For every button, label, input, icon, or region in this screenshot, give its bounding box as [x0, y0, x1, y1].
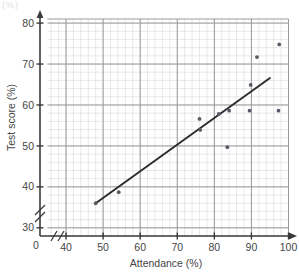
svg-text:100: 100: [280, 241, 298, 253]
svg-text:30: 30: [22, 221, 34, 233]
axis-lines: [37, 10, 297, 239]
svg-text:70: 70: [171, 241, 183, 253]
svg-text:0: 0: [33, 239, 39, 251]
chart-figure: (%) 3040506070804050607080901000 Attenda…: [0, 0, 299, 280]
svg-text:80: 80: [209, 241, 221, 253]
svg-text:90: 90: [246, 241, 258, 253]
minor-gridlines: [48, 19, 289, 236]
svg-text:70: 70: [22, 58, 34, 70]
svg-text:40: 40: [60, 241, 72, 253]
svg-text:40: 40: [22, 180, 34, 192]
svg-text:50: 50: [97, 241, 109, 253]
cropped-text-fragment: (%): [2, 0, 19, 10]
svg-text:60: 60: [134, 241, 146, 253]
data-points: [94, 42, 281, 205]
scatter-plot: 3040506070804050607080901000 Attendance …: [0, 0, 299, 280]
axis-tick-labels: 3040506070804050607080901000: [22, 17, 297, 253]
y-axis-title: Test score (%): [5, 84, 17, 151]
x-axis-title: Attendance (%): [130, 257, 202, 269]
svg-text:60: 60: [22, 99, 34, 111]
svg-text:50: 50: [22, 140, 34, 152]
svg-text:80: 80: [22, 17, 34, 29]
